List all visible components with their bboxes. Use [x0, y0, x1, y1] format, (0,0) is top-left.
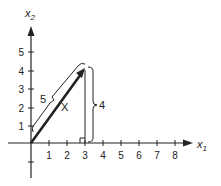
y-axis-label: x2 [24, 7, 36, 22]
x-axis-label: x1 [196, 138, 207, 153]
vector-arrowhead-icon [76, 68, 85, 78]
y-axis-arrowhead-icon [28, 26, 35, 36]
x-tick-label: 5 [118, 150, 124, 161]
y-axis: 1 2 3 4 5 x2 [18, 7, 35, 178]
vector-diagram: 1 2 3 4 5 6 7 8 x1 [0, 0, 221, 186]
vector-name-label: X [61, 101, 69, 113]
vector-x [31, 68, 85, 143]
x-tick-label: 1 [46, 150, 52, 161]
y-tick-label: 3 [18, 84, 24, 95]
y-tick-label: 5 [18, 47, 24, 58]
length-label: 5 [40, 93, 46, 105]
diagram-canvas: 1 2 3 4 5 6 7 8 x1 [0, 0, 221, 186]
height-label: 4 [99, 99, 105, 111]
y-tick-label: 2 [18, 103, 24, 114]
x-tick-label: 3 [82, 150, 88, 161]
x-tick-label: 6 [136, 150, 142, 161]
y-tick-label: 1 [18, 121, 24, 132]
x-axis-arrowhead-icon [183, 140, 193, 147]
right-angle-marker [80, 138, 85, 143]
x-tick-label: 2 [64, 150, 70, 161]
x-tick-label: 8 [172, 150, 178, 161]
x-axis: 1 2 3 4 5 6 7 8 x1 [8, 138, 207, 161]
height-brace [88, 67, 97, 142]
x-tick-label: 4 [100, 150, 106, 161]
x-tick-label: 7 [154, 150, 160, 161]
y-tick-label: 4 [18, 66, 24, 77]
